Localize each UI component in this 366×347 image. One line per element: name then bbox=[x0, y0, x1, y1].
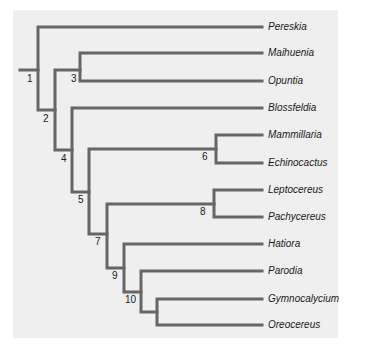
node-label-4: 4 bbox=[61, 153, 67, 165]
branch-node-9 bbox=[124, 244, 262, 292]
node-label-10: 10 bbox=[125, 294, 136, 306]
node-label-6: 6 bbox=[202, 151, 208, 163]
node-label-3: 3 bbox=[71, 73, 77, 85]
leaf-label-mammillaria: Mammillaria bbox=[268, 129, 322, 141]
leaf-label-hatiora: Hatiora bbox=[268, 238, 300, 250]
node-label-5: 5 bbox=[78, 194, 84, 206]
branch-node-3 bbox=[80, 53, 262, 81]
leaf-label-opuntia: Opuntia bbox=[268, 75, 303, 87]
leaf-label-leptocereus: Leptocereus bbox=[268, 184, 323, 196]
leaf-label-blossfeldia: Blossfeldia bbox=[268, 102, 316, 114]
leaf-label-gymnocalycium: Gymnocalycium bbox=[268, 293, 339, 305]
branch-node-10 bbox=[141, 271, 262, 312]
leaf-label-maihuenia: Maihuenia bbox=[268, 47, 314, 59]
branch-node-11 bbox=[157, 299, 262, 325]
leaf-label-oreocereus: Oreocereus bbox=[268, 319, 320, 331]
branch-node-8 bbox=[214, 190, 262, 217]
node-label-7: 7 bbox=[95, 236, 101, 248]
leaf-label-echinocactus: Echinocactus bbox=[268, 157, 327, 169]
leaf-label-parodia: Parodia bbox=[268, 265, 302, 277]
node-label-9: 9 bbox=[112, 270, 118, 282]
leaf-label-pereskia: Pereskia bbox=[268, 21, 307, 33]
node-label-2: 2 bbox=[43, 113, 49, 125]
branch-node-6 bbox=[216, 135, 262, 163]
node-label-1: 1 bbox=[27, 73, 33, 85]
leaf-label-pachycereus: Pachycereus bbox=[268, 211, 326, 223]
node-label-8: 8 bbox=[200, 206, 206, 218]
